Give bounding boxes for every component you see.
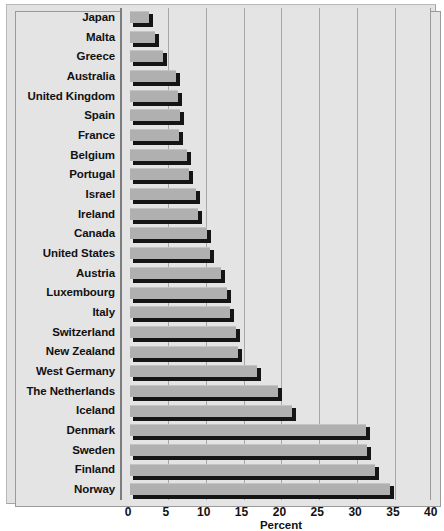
bar-row	[122, 461, 430, 481]
bar[interactable]	[130, 385, 282, 401]
bar-shadow-right	[236, 329, 240, 341]
category-label: United Kingdom	[28, 91, 115, 103]
bar-shadow-bottom	[133, 239, 211, 243]
bar-body	[130, 424, 366, 436]
x-tick-label: 10	[197, 506, 210, 518]
bar-row	[122, 343, 430, 363]
bar-body	[130, 306, 230, 318]
bar-shadow-bottom	[133, 82, 180, 86]
category-label: Israel	[86, 189, 115, 201]
bar-shadow-right	[390, 486, 394, 498]
bar-body	[130, 385, 278, 397]
bar-shadow-bottom	[133, 436, 370, 440]
bar-shadow-right	[179, 132, 183, 144]
bar-shadow-right	[210, 250, 214, 262]
category-label: Portugal	[69, 169, 115, 181]
bar[interactable]	[130, 346, 242, 362]
bar-row	[122, 165, 430, 185]
bar-body	[130, 90, 178, 102]
bar-body	[130, 11, 149, 23]
bar[interactable]	[130, 483, 394, 499]
category-label: Switzerland	[52, 327, 115, 339]
bar-body	[130, 247, 210, 259]
category-label: Spain	[84, 110, 115, 122]
bar[interactable]	[130, 287, 231, 303]
bar-row	[122, 244, 430, 264]
x-axis-title: Percent	[0, 519, 444, 531]
x-tick-label: 0	[125, 506, 132, 518]
bar[interactable]	[130, 444, 371, 460]
bar-shadow-right	[180, 112, 184, 124]
bar-shadow-right	[367, 447, 371, 459]
bar-shadow-right	[227, 290, 231, 302]
bar[interactable]	[130, 31, 159, 47]
category-label: The Netherlands	[26, 386, 115, 398]
bar-shadow-bottom	[133, 299, 231, 303]
bar-shadow-right	[238, 349, 242, 361]
bar[interactable]	[130, 247, 214, 263]
bar-row	[122, 67, 430, 87]
bar[interactable]	[130, 464, 379, 480]
bar-shadow-bottom	[133, 495, 394, 499]
bar-body	[130, 31, 155, 43]
category-label: Luxembourg	[46, 287, 115, 299]
bar[interactable]	[130, 70, 180, 86]
bar[interactable]	[130, 326, 240, 342]
bar-row	[122, 480, 430, 500]
bar-shadow-bottom	[133, 180, 193, 184]
bar[interactable]	[130, 149, 191, 165]
bar-shadow-right	[178, 93, 182, 105]
bar-chart-figure: JapanMaltaGreeceAustraliaUnited KingdomS…	[0, 0, 444, 531]
category-label: Japan	[82, 12, 115, 24]
category-label-column: JapanMaltaGreeceAustraliaUnited KingdomS…	[10, 8, 119, 500]
bar[interactable]	[130, 11, 153, 27]
category-label: Ireland	[78, 209, 115, 221]
bar-row	[122, 284, 430, 304]
category-label: Australia	[67, 71, 115, 83]
bar[interactable]	[130, 50, 167, 66]
bar[interactable]	[130, 227, 211, 243]
bar-row	[122, 8, 430, 28]
bar-row	[122, 28, 430, 48]
plot-area	[120, 8, 431, 500]
x-tick-label: 35	[386, 506, 399, 518]
bar-body	[130, 405, 292, 417]
bar-shadow-right	[230, 309, 234, 321]
category-label: United States	[43, 248, 115, 260]
bar-rows	[122, 8, 430, 500]
bar-shadow-bottom	[133, 476, 379, 480]
bar-body	[130, 70, 176, 82]
bar-shadow-bottom	[133, 279, 225, 283]
category-label: New Zealand	[46, 346, 115, 358]
bar-body	[130, 168, 189, 180]
x-tick-label: 15	[235, 506, 248, 518]
x-tick-label: 25	[311, 506, 324, 518]
bar-row	[122, 362, 430, 382]
bar[interactable]	[130, 424, 370, 440]
bar[interactable]	[130, 267, 225, 283]
bar[interactable]	[130, 109, 184, 125]
bar[interactable]	[130, 405, 296, 421]
bar[interactable]	[130, 90, 182, 106]
bar[interactable]	[130, 306, 234, 322]
bar-shadow-right	[189, 171, 193, 183]
bar-shadow-right	[155, 34, 159, 46]
bar[interactable]	[130, 188, 200, 204]
bar[interactable]	[130, 365, 261, 381]
bar-shadow-bottom	[133, 62, 167, 66]
bar-body	[130, 346, 238, 358]
bar-shadow-bottom	[133, 102, 182, 106]
bar-row	[122, 126, 430, 146]
bar-row	[122, 402, 430, 422]
bar-body	[130, 50, 163, 62]
bar[interactable]	[130, 168, 193, 184]
bar-shadow-bottom	[133, 417, 296, 421]
bar-shadow-bottom	[133, 358, 242, 362]
bar-row	[122, 47, 430, 67]
bar-shadow-bottom	[133, 397, 282, 401]
bar-body	[130, 326, 236, 338]
bar[interactable]	[130, 129, 183, 145]
bar-shadow-bottom	[133, 161, 191, 165]
bar[interactable]	[130, 208, 202, 224]
bar-shadow-bottom	[133, 377, 261, 381]
